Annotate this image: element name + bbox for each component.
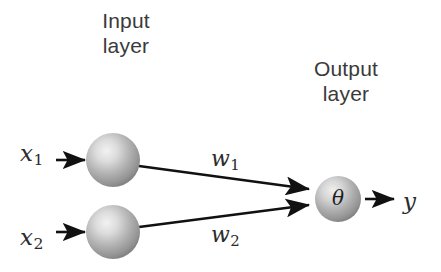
input-label-x2: x2 xyxy=(20,224,43,253)
input-label-x1: x1 xyxy=(20,140,43,169)
input-label-x1-subscript: 1 xyxy=(33,150,43,169)
input-label-x2-symbol: x xyxy=(20,224,33,250)
neural-network-diagram: Input layer Output layer x1 x2 w1 w2 θ y xyxy=(0,0,441,272)
input-label-x2-subscript: 2 xyxy=(33,234,43,253)
output-layer-label: Output layer xyxy=(288,56,404,106)
weight-label-w1-subscript: 1 xyxy=(230,156,240,174)
input-node-1 xyxy=(86,133,140,187)
output-node-symbol: θ xyxy=(326,186,350,210)
weight-label-w1: w1 xyxy=(211,146,240,174)
input-node-2 xyxy=(86,205,140,259)
weight-label-w2: w2 xyxy=(211,222,240,250)
input-layer-label: Input layer xyxy=(68,8,184,58)
weight-label-w2-subscript: 2 xyxy=(230,232,240,250)
weight-label-w2-symbol: w xyxy=(211,222,230,247)
input-label-x1-symbol: x xyxy=(20,140,33,166)
output-label-y: y xyxy=(403,188,416,214)
weight-label-w1-symbol: w xyxy=(211,146,230,171)
